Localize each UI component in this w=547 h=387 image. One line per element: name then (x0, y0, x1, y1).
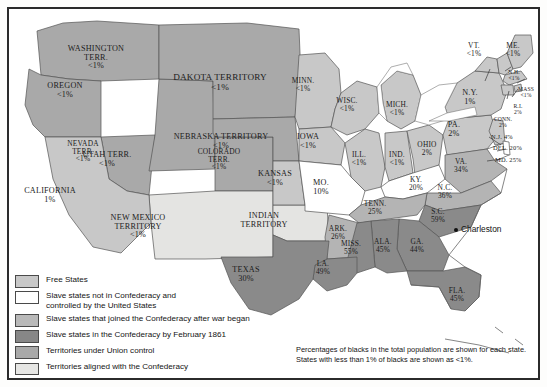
footnote-line-1: Percentages of blacks in the total popul… (296, 345, 538, 355)
legend-item-slave-states-union[interactable]: Slave states not in Confederacy and cont… (15, 290, 315, 311)
legend-swatch-slave-states-union (15, 291, 39, 304)
region-florida[interactable] (407, 267, 481, 311)
legend-item-free-states[interactable]: Free States (15, 274, 315, 288)
region-vermont[interactable] (475, 57, 499, 73)
legend-swatch-confederacy-feb-1861 (15, 330, 39, 343)
legend-label: Free States (46, 274, 88, 285)
map-footnote: Percentages of blacks in the total popul… (296, 345, 538, 365)
legend-item-confederacy-feb-1861[interactable]: Slave states in the Confederacy by Febru… (15, 329, 315, 343)
footnote-line-2: States with less than 1% of blacks are s… (296, 355, 538, 365)
legend-label: Territories aligned with the Confederacy (46, 362, 188, 373)
region-iowa[interactable] (299, 127, 345, 165)
charleston-city-label: Charleston (461, 224, 502, 234)
region-washington-territory[interactable] (37, 21, 159, 81)
legend-item-territories-union[interactable]: Territories under Union control (15, 345, 315, 359)
map-legend: Free States Slave states not in Confeder… (15, 274, 315, 378)
legend-label: Slave states that joined the Confederacy… (46, 313, 250, 324)
region-maine[interactable] (507, 35, 533, 69)
legend-label: Territories under Union control (46, 345, 154, 356)
legend-label: Slave states in the Confederacy by Febru… (46, 329, 226, 340)
legend-swatch-free-states (15, 275, 39, 288)
region-colorado-territory[interactable] (215, 137, 273, 191)
legend-item-joined-after-war[interactable]: Slave states that joined the Confederacy… (15, 313, 315, 327)
legend-swatch-territories-confederacy (15, 363, 39, 376)
region-connecticut[interactable] (501, 85, 514, 95)
region-delaware[interactable] (503, 141, 510, 155)
region-new-mexico-territory[interactable] (149, 191, 273, 259)
legend-swatch-territories-union (15, 346, 39, 359)
charleston-city-dot[interactable] (454, 228, 458, 232)
legend-item-territories-confederacy[interactable]: Territories aligned with the Confederacy (15, 362, 315, 376)
region-rhode-island[interactable] (514, 84, 522, 92)
map-page: WASHINGTONTERR. <1% OREGON <1% CALIFORNI… (0, 0, 547, 387)
legend-swatch-joined-after-war (15, 314, 39, 327)
region-utah-territory[interactable] (149, 79, 215, 171)
legend-label: Slave states not in Confederacy and cont… (46, 290, 176, 311)
map-canvas: WASHINGTONTERR. <1% OREGON <1% CALIFORNI… (9, 9, 538, 378)
map-frame: WASHINGTONTERR. <1% OREGON <1% CALIFORNI… (7, 7, 540, 380)
